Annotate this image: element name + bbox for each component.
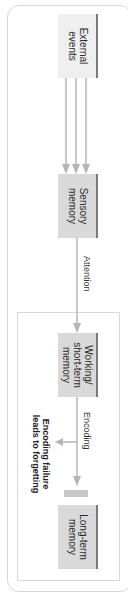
external-events-node: External events [58,14,98,78]
sensory-memory-label: Sensory memory [58,174,98,238]
working-memory-label: Working/ short-term memory [58,333,98,397]
long-term-memory-label: Long-term memory [58,505,98,569]
encoding-gate-bar [64,490,88,497]
attention-label: Attention [82,256,92,292]
working-memory-node: Working/ short-term memory [58,333,98,397]
encoding-label: Encoding [82,412,92,450]
forgetting-annotation: Encoding failure leads to forgetting [31,408,51,500]
sensory-memory-node: Sensory memory [58,174,98,238]
long-term-memory-node: Long-term memory [58,505,98,569]
external-events-label: External events [58,14,98,78]
